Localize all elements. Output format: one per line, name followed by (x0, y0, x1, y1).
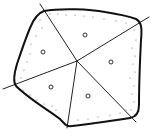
stipple-dot (43, 103, 44, 104)
stipple-dot (133, 85, 134, 86)
stipple-dot (134, 55, 135, 56)
stipple-dot (125, 109, 126, 110)
stipple-dot (55, 109, 56, 110)
stipple-dot (74, 14, 75, 15)
stipple-dot (39, 19, 40, 20)
sector-bottom-left-circle (49, 85, 53, 89)
stipple-dot (133, 101, 134, 102)
boundary-dots (20, 13, 136, 122)
sector-left-circle (41, 50, 45, 54)
spoke-bottom (67, 61, 77, 128)
stipple-dot (109, 114, 110, 115)
stipple-dot (125, 22, 126, 23)
spoke-top-left (40, 4, 77, 61)
stipple-dot (57, 13, 58, 14)
stipple-dot (20, 77, 21, 78)
stipple-dot (30, 43, 31, 44)
stipple-dot (134, 71, 135, 72)
partition-diagram (0, 0, 153, 139)
stipple-dot (23, 69, 24, 70)
stipple-dot (65, 14, 66, 15)
spoke-top-right (77, 17, 149, 61)
stipple-dot (92, 16, 93, 17)
stipple-dot (49, 13, 50, 14)
stipple-dot (133, 29, 134, 30)
stipple-dot (103, 18, 104, 19)
spoke-lines (3, 4, 149, 128)
stipple-dot (87, 118, 88, 119)
stipple-dot (119, 112, 120, 113)
sector-bottom-right-circle (86, 94, 90, 98)
sector-right-circle (109, 60, 113, 64)
stipple-dot (129, 77, 130, 78)
stipple-dot (135, 39, 136, 40)
stipple-dot (51, 105, 52, 106)
stipple-dot (97, 116, 98, 117)
stipple-dot (35, 35, 36, 36)
sector-top-circle (83, 33, 87, 37)
stipple-dot (130, 109, 131, 110)
stipple-dot (131, 47, 132, 48)
stipple-dot (29, 53, 30, 54)
stipple-dot (115, 20, 116, 21)
sector-nodes (41, 33, 113, 98)
stipple-dot (29, 94, 30, 95)
stipple-dot (26, 61, 27, 62)
stipple-dot (67, 121, 68, 122)
stipple-dot (83, 15, 84, 16)
stipple-dot (22, 89, 23, 90)
stipple-dot (131, 93, 132, 94)
spoke-bottom-right (77, 61, 136, 122)
stipple-dot (41, 27, 42, 28)
stipple-dot (77, 119, 78, 120)
stipple-dot (36, 99, 37, 100)
stipple-dot (132, 63, 133, 64)
